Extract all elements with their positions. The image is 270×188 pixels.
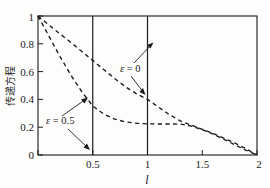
annotation-epsilon-0-rest: = 0 — [124, 63, 140, 74]
chart-figure: 0 0.2 0.4 0.6 0.8 1 0.5 1 1.5 2 l 传递方程 ε… — [0, 0, 270, 188]
x-tick-label-1: 1 — [145, 158, 151, 170]
x-axis-ticks — [38, 150, 257, 155]
arrow-up-head-2 — [81, 98, 88, 104]
y-tick-label-0-8: 0.8 — [20, 38, 34, 50]
x-tick-label-0-5: 0.5 — [86, 158, 100, 170]
x-axis-title: l — [145, 173, 149, 187]
annotation-epsilon-0-label: ε = 0 — [120, 63, 141, 74]
arrow-down-line-2 — [68, 129, 88, 148]
y-axis-title: 传递方程 — [4, 66, 16, 106]
x-tick-label-1-5: 1.5 — [195, 158, 209, 170]
x-tick-label-2: 2 — [256, 158, 262, 170]
chart-canvas: 0 0.2 0.4 0.6 0.8 1 0.5 1 1.5 2 l 传递方程 ε… — [0, 0, 270, 188]
y-tick-label-1: 1 — [29, 11, 35, 23]
y-tick-label-0-4: 0.4 — [20, 93, 34, 105]
y-axis-ticks — [38, 16, 43, 155]
y-tick-label-0: 0 — [29, 149, 35, 161]
y-tick-label-0-2: 0.2 — [20, 121, 34, 133]
arrow-down-head — [140, 88, 146, 95]
arrow-up-line-2 — [62, 99, 86, 116]
annotation-epsilon-0-5-rest: = 0.5 — [50, 115, 74, 126]
annotation-epsilon-0-5-label: ε = 0.5 — [46, 115, 74, 126]
y-tick-label-0-6: 0.6 — [20, 66, 34, 78]
